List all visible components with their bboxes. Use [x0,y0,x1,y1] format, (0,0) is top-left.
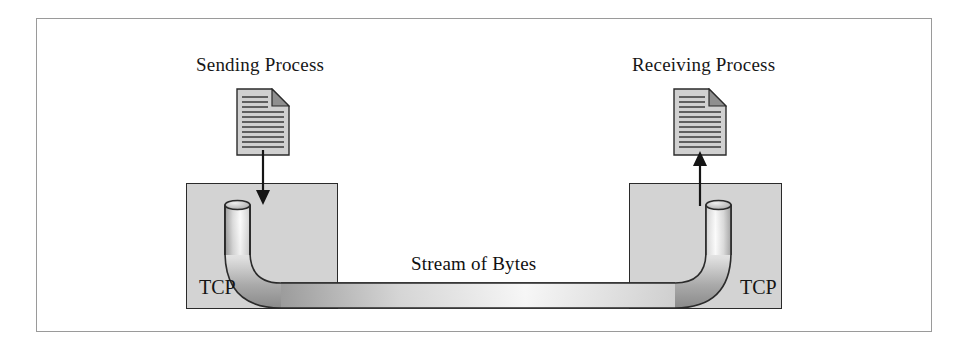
figure-canvas: Stream of Bytes TCP TCP Sending Process … [0,0,956,348]
document-page-icon-sending [236,88,290,156]
sending-process-label: Sending Process [196,54,324,76]
tcp-label-left: TCP [199,276,236,299]
figure-frame [36,18,932,332]
arrow-down-icon [252,150,274,206]
stream-of-bytes-label: Stream of Bytes [411,253,536,275]
receiving-process-label: Receiving Process [632,54,775,76]
arrow-up-icon [689,150,711,206]
document-page-icon-receiving [673,88,727,156]
tcp-label-right: TCP [740,276,777,299]
